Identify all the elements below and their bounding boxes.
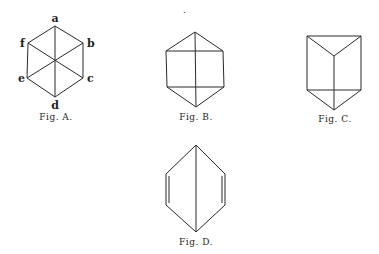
figure-d-lower-left: [166, 205, 196, 232]
figure-d-caption: Fig. D.: [179, 237, 213, 247]
figure-d: Fig. D.: [166, 145, 225, 247]
vertex-label-e: e: [18, 72, 25, 85]
figure-b-center-line: [195, 32, 196, 107]
figure-d-lower-right: [196, 205, 225, 232]
figure-d-upper-left: [166, 145, 196, 174]
crystal-figures-canvas: a b c d e f Fig. A. . Fig. B. Fig. C.: [0, 0, 379, 254]
figure-c-bottom-right: [334, 90, 361, 110]
vertex-label-d: d: [51, 99, 59, 112]
vertex-label-f: f: [20, 37, 26, 50]
stray-mark: .: [183, 5, 186, 15]
figure-b: Fig. B.: [166, 32, 224, 122]
figure-c-caption: Fig. C.: [318, 114, 352, 124]
figure-c-top-left-face: [307, 36, 334, 56]
figure-c-bottom-left: [307, 90, 334, 110]
vertex-label-a: a: [51, 12, 58, 25]
figure-a-caption: Fig. A.: [39, 112, 72, 122]
figure-b-caption: Fig. B.: [179, 112, 213, 122]
figure-a: a b c d e f Fig. A.: [18, 12, 95, 122]
figure-c-top-right-face: [334, 36, 361, 56]
figure-d-upper-right: [196, 145, 225, 174]
figure-c: Fig. C.: [307, 36, 361, 124]
vertex-label-b: b: [87, 37, 95, 50]
vertex-label-c: c: [87, 72, 94, 85]
